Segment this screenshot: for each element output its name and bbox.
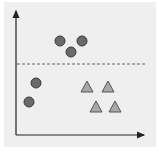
triangle-point <box>90 101 102 112</box>
circle-point <box>66 47 76 57</box>
circle-point <box>77 36 87 46</box>
triangle-point <box>102 81 114 92</box>
scatter-diagram <box>0 0 159 153</box>
circle-points <box>24 36 87 107</box>
triangle-point <box>109 101 121 112</box>
triangle-points <box>81 81 121 112</box>
triangle-point <box>81 81 93 92</box>
circle-point <box>31 78 41 88</box>
circle-point <box>55 36 65 46</box>
circle-point <box>24 97 34 107</box>
